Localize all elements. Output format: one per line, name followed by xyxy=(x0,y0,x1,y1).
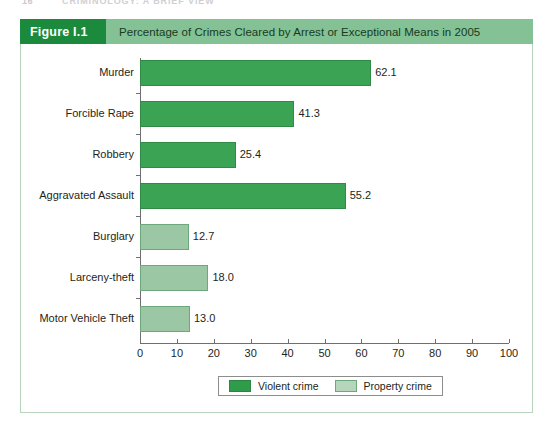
legend-swatch-icon xyxy=(335,380,357,392)
x-axis-tick-label: 10 xyxy=(162,347,192,359)
bar-forcible-rape xyxy=(140,101,294,127)
category-label-robbery: Robbery xyxy=(20,142,140,166)
bar-motor-vehicle-theft xyxy=(140,306,190,332)
x-axis-tick-label: 80 xyxy=(420,347,450,359)
running-page-header: 16 CRIMINOLOGY: A BRIEF VIEW xyxy=(0,0,554,12)
bar-burglary xyxy=(140,224,189,250)
category-label-aggravated-assault: Aggravated Assault xyxy=(20,183,140,207)
legend-item-violent-crime: Violent crime xyxy=(229,380,319,392)
figure-header-band: Figure I.1 Percentage of Crimes Cleared … xyxy=(20,19,533,44)
x-axis-tick xyxy=(177,339,178,343)
x-axis-tick-label: 70 xyxy=(383,347,413,359)
x-axis-tick-label: 0 xyxy=(125,347,155,359)
x-axis-tick xyxy=(509,339,510,343)
category-label-text: Forcible Rape xyxy=(66,107,134,119)
category-label-murder: Murder xyxy=(20,60,140,84)
legend-item-property-crime: Property crime xyxy=(335,380,432,392)
category-label-burglary: Burglary xyxy=(20,224,140,248)
bar-value-label: 13.0 xyxy=(194,306,215,330)
bar-aggravated-assault xyxy=(140,183,346,209)
x-axis-tick xyxy=(398,339,399,343)
chart-legend: Violent crimeProperty crime xyxy=(218,376,443,396)
category-label-text: Burglary xyxy=(93,230,134,242)
legend-label: Property crime xyxy=(364,380,432,392)
x-axis-tick-label: 50 xyxy=(310,347,340,359)
running-title: CRIMINOLOGY: A BRIEF VIEW xyxy=(62,0,215,6)
category-label-larceny-theft: Larceny-theft xyxy=(20,265,140,289)
y-axis-tick xyxy=(136,298,140,299)
x-axis-tick xyxy=(288,339,289,343)
bar-value-label: 62.1 xyxy=(375,60,396,84)
x-axis-tick-label: 90 xyxy=(457,347,487,359)
category-label-forcible-rape: Forcible Rape xyxy=(20,101,140,125)
x-axis-tick-label: 40 xyxy=(273,347,303,359)
legend-label: Violent crime xyxy=(258,380,319,392)
bar-value-label: 25.4 xyxy=(240,142,261,166)
x-axis-tick-label: 100 xyxy=(494,347,524,359)
category-label-text: Robbery xyxy=(92,148,134,160)
x-axis-tick-label: 60 xyxy=(346,347,376,359)
x-axis-tick xyxy=(361,339,362,343)
x-axis-tick xyxy=(140,339,141,343)
x-axis-tick xyxy=(472,339,473,343)
chart-plot-area: 0102030405060708090100 62.141.325.455.21… xyxy=(20,44,533,413)
y-axis-tick xyxy=(136,257,140,258)
category-label-motor-vehicle-theft: Motor Vehicle Theft xyxy=(20,306,140,330)
bar-larceny-theft xyxy=(140,265,208,291)
bar-value-label: 18.0 xyxy=(212,265,233,289)
y-axis-tick xyxy=(136,134,140,135)
x-axis-tick-label: 30 xyxy=(236,347,266,359)
x-axis-tick xyxy=(325,339,326,343)
y-axis-tick xyxy=(136,93,140,94)
x-axis-tick xyxy=(214,339,215,343)
figure-number-badge: Figure I.1 xyxy=(20,19,106,44)
x-axis-line xyxy=(140,343,509,344)
page-folio-number: 16 xyxy=(22,0,33,6)
category-label-text: Larceny-theft xyxy=(70,271,134,283)
y-axis-tick xyxy=(136,216,140,217)
category-label-text: Murder xyxy=(99,66,134,78)
x-axis-tick xyxy=(251,339,252,343)
bar-value-label: 55.2 xyxy=(350,183,371,207)
category-label-text: Aggravated Assault xyxy=(39,189,134,201)
figure-caption: Percentage of Crimes Cleared by Arrest o… xyxy=(106,19,533,44)
category-label-text: Motor Vehicle Theft xyxy=(39,312,134,324)
bar-value-label: 41.3 xyxy=(298,101,319,125)
y-axis-tick xyxy=(136,175,140,176)
bar-value-label: 12.7 xyxy=(193,224,214,248)
x-axis-tick-label: 20 xyxy=(199,347,229,359)
bar-robbery xyxy=(140,142,236,168)
x-axis-tick xyxy=(435,339,436,343)
legend-swatch-icon xyxy=(229,380,251,392)
bar-murder xyxy=(140,60,371,86)
